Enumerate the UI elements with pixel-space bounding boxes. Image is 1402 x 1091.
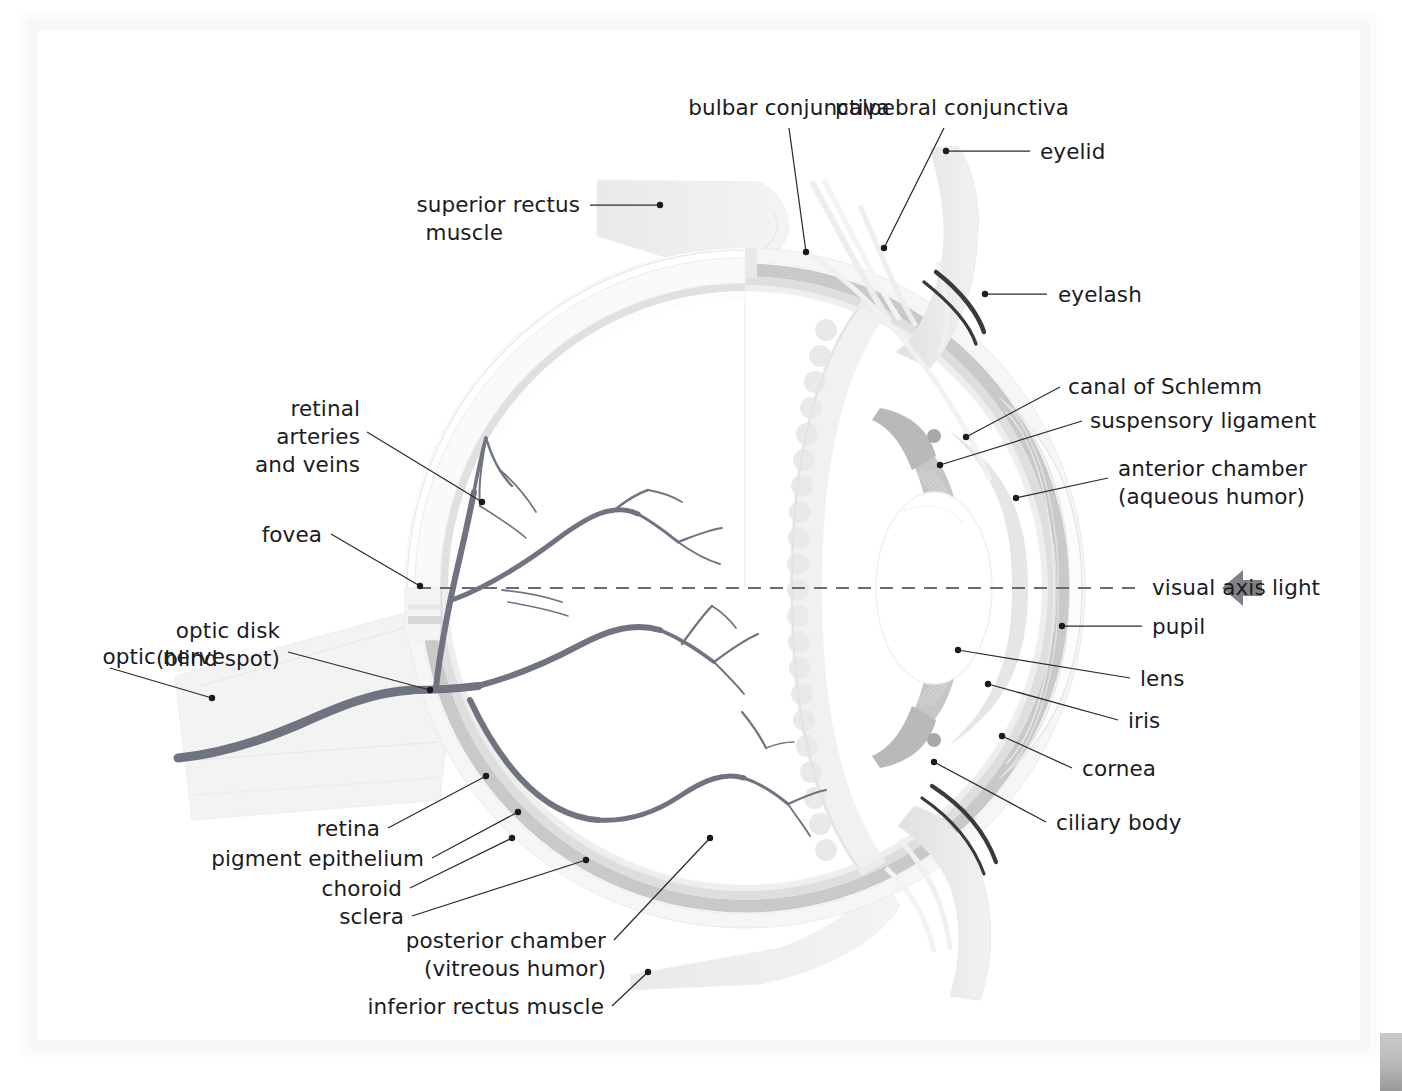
diagram-stage: bulbar conjunctiva palpebral conjunctiva… <box>0 0 1402 1091</box>
cutaway-wedge <box>405 248 757 588</box>
label-anterior-chamber-line2: (aqueous humor) <box>1118 484 1305 509</box>
label-pupil: pupil <box>1152 614 1205 639</box>
label-superior-rectus-muscle-line1: superior rectus <box>416 192 580 217</box>
label-choroid: choroid <box>322 876 402 901</box>
label-sclera: sclera <box>339 904 404 929</box>
label-retinal-vessels-line3: and veins <box>255 452 360 477</box>
label-inferior-rectus-muscle: inferior rectus muscle <box>367 994 604 1019</box>
label-fovea: fovea <box>262 522 322 547</box>
cut-face-layers <box>405 588 442 640</box>
label-canal-of-schlemm: canal of Schlemm <box>1068 374 1262 399</box>
label-iris: iris <box>1128 708 1160 733</box>
label-retinal-vessels-line2: arteries <box>276 424 360 449</box>
label-eyelash: eyelash <box>1058 282 1142 307</box>
label-posterior-chamber-line1: posterior chamber <box>406 928 606 953</box>
label-superior-rectus-muscle-line2: muscle <box>426 220 503 245</box>
eye-anatomy-illustration: bulbar conjunctiva palpebral conjunctiva… <box>0 0 1402 1091</box>
label-light: light <box>1272 575 1320 600</box>
label-retinal-vessels-line1: retinal <box>291 396 360 421</box>
label-eyelid: eyelid <box>1040 139 1105 164</box>
label-optic-disk-line1: optic disk <box>176 618 281 643</box>
label-optic-nerve: optic nerve <box>102 644 225 669</box>
label-anterior-chamber-line1: anterior chamber <box>1118 456 1307 481</box>
label-ciliary-body: ciliary body <box>1056 810 1182 835</box>
label-suspensory-ligament: suspensory ligament <box>1090 408 1316 433</box>
label-visual-axis: visual axis <box>1152 575 1266 600</box>
label-pigment-epithelium: pigment epithelium <box>211 846 424 871</box>
canal-of-schlemm-shape <box>927 429 941 443</box>
label-lens: lens <box>1140 666 1184 691</box>
label-retina: retina <box>317 816 380 841</box>
label-posterior-chamber-line2: (vitreous humor) <box>424 956 606 981</box>
label-palpebral-conjunctiva: palpebral conjunctiva <box>835 95 1069 120</box>
label-cornea: cornea <box>1082 756 1156 781</box>
